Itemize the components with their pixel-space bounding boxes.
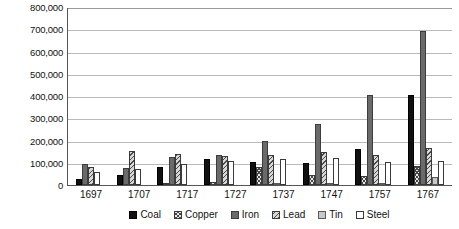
y-axis-tick-label: 700,000 [30, 25, 63, 35]
y-axis-tick-label: 500,000 [30, 70, 63, 80]
legend-swatch-steel-icon [356, 211, 364, 219]
legend-swatch-iron-icon [231, 211, 239, 219]
bar-group-1717 [157, 8, 187, 185]
legend-item-steel[interactable]: Steel [356, 210, 390, 220]
bar-steel-1707 [135, 169, 141, 185]
y-axis-tick-label: 600,000 [30, 48, 63, 58]
bar-steel-1757 [385, 162, 391, 185]
bar-steel-1747 [333, 158, 339, 185]
bar-group-1737 [250, 8, 286, 185]
legend-label: Steel [367, 210, 390, 220]
bar-lead-1757 [373, 155, 379, 185]
x-axis-tick-label: 1737 [260, 189, 308, 203]
bar-lead-1747 [321, 152, 327, 185]
y-axis-tick-label: 0 [58, 181, 63, 191]
x-axis-tick-label: 1767 [404, 189, 452, 203]
legend-swatch-coal-icon [129, 211, 137, 219]
bar-group-1697 [76, 8, 100, 185]
legend-label: Copper [185, 210, 218, 220]
x-axis-tick-label: 1727 [211, 189, 259, 203]
legend-item-copper[interactable]: Copper [174, 210, 218, 220]
y-axis-labels: 800,000700,000600,000500,000400,000300,0… [0, 0, 63, 186]
bar-group-1727 [204, 8, 234, 185]
y-axis-tick-label: 300,000 [30, 114, 63, 124]
bar-group-1707 [117, 8, 141, 185]
x-axis-tick-label: 1717 [163, 189, 211, 203]
x-axis-labels: 16971707171717271737174717571767 [67, 189, 452, 203]
legend-label: Iron [242, 210, 259, 220]
x-axis-tick-label: 1697 [67, 189, 115, 203]
y-axis-tick-label: 200,000 [30, 137, 63, 147]
legend-item-iron[interactable]: Iron [231, 210, 259, 220]
bar-group-1757 [355, 8, 391, 185]
y-axis-tick-label: 100,000 [30, 159, 63, 169]
legend-swatch-tin-icon [318, 211, 326, 219]
bar-chart: 800,000700,000600,000500,000400,000300,0… [0, 0, 459, 229]
x-axis-tick-label: 1707 [115, 189, 163, 203]
x-axis-tick-label: 1757 [356, 189, 404, 203]
bar-steel-1767 [438, 161, 444, 185]
bar-steel-1727 [228, 161, 234, 185]
x-axis-tick-label: 1747 [308, 189, 356, 203]
bar-group-1747 [303, 8, 339, 185]
legend-item-coal[interactable]: Coal [129, 210, 161, 220]
bar-steel-1737 [280, 159, 286, 185]
legend-swatch-lead-icon [272, 211, 280, 219]
legend-label: Tin [329, 210, 343, 220]
bar-groups [68, 8, 452, 185]
chart-legend: CoalCopperIronLeadTinSteel [67, 208, 452, 222]
bar-steel-1717 [181, 164, 187, 185]
bar-group-1767 [408, 8, 444, 185]
legend-swatch-copper-icon [174, 211, 182, 219]
legend-item-lead[interactable]: Lead [272, 210, 305, 220]
bar-steel-1697 [94, 172, 100, 185]
bar-coal-1727 [204, 159, 210, 185]
legend-label: Coal [140, 210, 161, 220]
legend-item-tin[interactable]: Tin [318, 210, 343, 220]
bar-lead-1737 [268, 155, 274, 185]
y-axis-tick-label: 400,000 [30, 92, 63, 102]
legend-label: Lead [283, 210, 305, 220]
plot-area [67, 8, 452, 186]
y-axis-tick-label: 800,000 [30, 3, 63, 13]
